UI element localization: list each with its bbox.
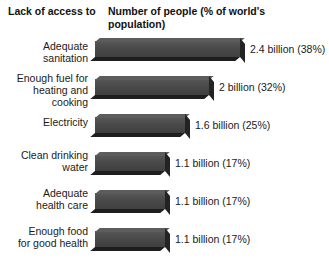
bar-bottom-face	[90, 57, 240, 61]
bar-bottom-face	[90, 171, 165, 175]
bar-top-face	[95, 190, 170, 194]
bar-value-label: 1.1 billion (17%)	[175, 195, 250, 207]
bar-side-face	[165, 152, 170, 177]
bar-value-label: 1.1 billion (17%)	[175, 233, 250, 245]
row-label: Electricity	[0, 116, 88, 128]
bar-top-face	[95, 228, 170, 232]
bar	[95, 76, 209, 100]
bar-front-face	[95, 79, 209, 95]
bar-front-face	[95, 155, 165, 171]
row-label: Adequate sanitation	[0, 40, 88, 64]
bar	[95, 152, 165, 176]
bar-value-label: 1.6 billion (25%)	[195, 119, 270, 131]
bar-bottom-face	[90, 95, 209, 99]
bar	[95, 114, 185, 138]
bar	[95, 190, 165, 214]
bar-side-face	[165, 228, 170, 253]
chart-row: Adequate health care 1.1 billion (17%)	[0, 188, 329, 226]
bar-bottom-face	[90, 247, 165, 251]
chart-header: Lack of access to Number of people (% of…	[0, 0, 329, 34]
row-label: Enough food for good health	[0, 225, 88, 249]
bar-chart: Adequate sanitation 2.4 billion (38%) En…	[0, 34, 329, 263]
bar-value-label: 2.4 billion (38%)	[250, 43, 325, 55]
bar-bottom-face	[90, 209, 165, 213]
bar-front-face	[95, 231, 165, 247]
column-header-value: Number of people (% of world's populatio…	[108, 5, 318, 30]
bar	[95, 38, 240, 62]
chart-row: Adequate sanitation 2.4 billion (38%)	[0, 36, 329, 74]
bar-top-face	[95, 38, 245, 42]
bar-side-face	[240, 38, 245, 63]
bar	[95, 228, 165, 252]
chart-row: Enough fuel for heating and cooking 2 bi…	[0, 74, 329, 112]
bar-value-label: 2 billion (32%)	[219, 81, 286, 93]
bar-front-face	[95, 117, 185, 133]
bar-bottom-face	[90, 133, 185, 137]
bar-side-face	[185, 114, 190, 139]
chart-row: Electricity 1.6 billion (25%)	[0, 112, 329, 150]
row-label: Enough fuel for heating and cooking	[0, 72, 88, 108]
chart-row: Clean drinking water 1.1 billion (17%)	[0, 150, 329, 188]
bar-side-face	[209, 76, 214, 101]
bar-front-face	[95, 193, 165, 209]
bar-top-face	[95, 114, 190, 118]
bar-top-face	[95, 152, 170, 156]
bar-value-label: 1.1 billion (17%)	[175, 157, 250, 169]
row-label: Adequate health care	[0, 187, 88, 211]
bar-top-face	[95, 76, 214, 80]
row-label: Clean drinking water	[0, 149, 88, 173]
column-header-category: Lack of access to	[8, 5, 98, 18]
bar-front-face	[95, 41, 240, 57]
bar-side-face	[165, 190, 170, 215]
chart-row: Enough food for good health 1.1 billion …	[0, 226, 329, 263]
